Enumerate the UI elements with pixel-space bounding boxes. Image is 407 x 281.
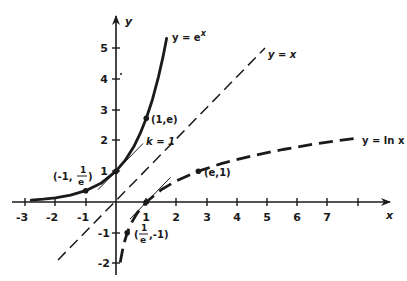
point-e-1: [196, 168, 202, 174]
log-curve-label: y = ln x: [362, 135, 405, 146]
x-tick-label: -3: [16, 211, 28, 224]
slope-label: k = 1: [146, 136, 175, 147]
x-tick-label: 3: [203, 211, 211, 224]
point-0-1: [113, 168, 119, 174]
y-tick-label: 1: [100, 165, 108, 178]
x-tick-label: 7: [323, 211, 331, 224]
exp-curve-label: y = ex: [172, 29, 207, 43]
point-label-m1-inv-e: (-1, 1 e ): [53, 165, 93, 187]
point-m1-inv-e: [83, 188, 89, 194]
point-label-inv-e-m1: ( 1 e ,-1): [134, 223, 168, 245]
x-axis-label: x: [385, 209, 394, 222]
svg-text:e: e: [140, 235, 146, 245]
svg-text:(: (: [134, 229, 139, 240]
identity-line-label: y = x: [268, 49, 297, 60]
x-tick-label: 4: [233, 211, 241, 224]
svg-text:1: 1: [80, 165, 86, 175]
function-graph: -3 -2 -1 1 2 3 4 5 6 7 5 4 3 2 1 -1 -2 y…: [0, 0, 407, 281]
svg-text:(-1,: (-1,: [53, 171, 72, 182]
y-tick-label: -2: [98, 257, 110, 270]
x-tick-label: 5: [263, 211, 271, 224]
svg-text:e: e: [78, 177, 84, 187]
x-tick-label: 6: [293, 211, 301, 224]
y-tick-label: 3: [100, 104, 108, 117]
x-tick-labels: -3 -2 -1 1 2 3 4 5 6 7: [16, 211, 331, 224]
svg-text:1: 1: [141, 223, 147, 233]
x-tick-label: -2: [46, 211, 58, 224]
x-tick-label: 2: [172, 211, 180, 224]
y-axis-label: y: [125, 15, 133, 28]
y-tick-label: 4: [100, 73, 108, 86]
point-label-1-e: (1,e): [151, 114, 178, 125]
point-inv-e-m1: [124, 230, 130, 236]
point-1-e: [144, 116, 150, 122]
point-1-0: [144, 199, 150, 205]
svg-text:): ): [88, 171, 93, 182]
y-tick-label: 5: [100, 42, 108, 55]
point-label-e-1: (e,1): [204, 167, 231, 178]
y-tick-labels: 5 4 3 2 1 -1 -2: [98, 42, 110, 270]
svg-text:,-1): ,-1): [149, 229, 168, 240]
y-tick-label: 2: [100, 134, 108, 147]
log-curve: [120, 138, 355, 262]
stray-dot: [120, 73, 122, 75]
y-tick-label: -1: [98, 227, 110, 240]
x-tick-label: -1: [77, 211, 89, 224]
